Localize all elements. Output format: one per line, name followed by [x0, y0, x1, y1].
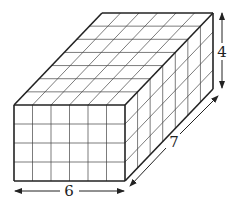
- grid-line: [107, 13, 195, 105]
- depth-arrow: [180, 96, 218, 134]
- length-dimension: 6: [15, 182, 124, 200]
- front-face-grid: [14, 105, 125, 181]
- grid-line: [125, 32, 213, 124]
- depth-dimension: 7: [130, 96, 218, 186]
- depth-arrow: [130, 148, 166, 186]
- prism-diagram: 6 7 4: [0, 0, 238, 206]
- grid-line: [125, 13, 213, 105]
- grid-line: [70, 13, 158, 105]
- grid-line: [51, 13, 139, 105]
- grid-line: [125, 51, 213, 143]
- length-label: 6: [64, 182, 74, 200]
- depth-label: 7: [169, 133, 179, 151]
- height-label: 4: [217, 43, 227, 61]
- height-dimension: 4: [217, 13, 227, 88]
- grid-line: [33, 13, 121, 105]
- prism-outline: [14, 13, 213, 181]
- grid-line: [14, 13, 102, 105]
